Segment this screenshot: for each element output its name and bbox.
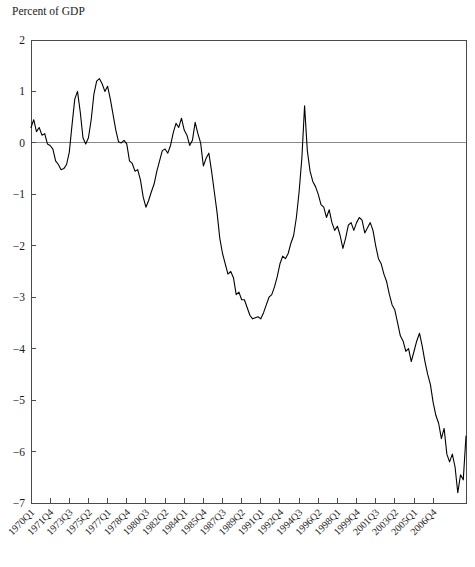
y-tick-label: 2	[19, 34, 25, 46]
chart-figure: Percent of GDP 210−1−2−3−4−5−6−7 1970Q11…	[0, 0, 475, 567]
y-axis-tick-labels: 210−1−2−3−4−5−6−7	[13, 34, 26, 509]
y-tick-label: −6	[13, 446, 25, 458]
y-tick-label: 0	[19, 137, 25, 149]
y-tick-label: −3	[13, 291, 25, 303]
y-tick-label: 1	[19, 85, 25, 97]
chart-title: Percent of GDP	[12, 4, 85, 18]
line-chart-plot: 210−1−2−3−4−5−6−7 1970Q11971Q41973Q31975…	[0, 0, 475, 567]
x-axis-ticks	[31, 498, 433, 503]
y-tick-label: −5	[13, 394, 25, 406]
y-axis-ticks	[31, 40, 36, 503]
y-tick-label: −4	[13, 343, 25, 355]
y-tick-label: −2	[13, 240, 25, 252]
y-tick-label: −1	[13, 188, 25, 200]
axis-frame	[31, 40, 466, 503]
data-series-line	[31, 79, 466, 493]
y-tick-label: −7	[13, 497, 25, 509]
x-axis-tick-labels: 1970Q11971Q41973Q31975Q21977Q11978Q41980…	[6, 507, 439, 538]
